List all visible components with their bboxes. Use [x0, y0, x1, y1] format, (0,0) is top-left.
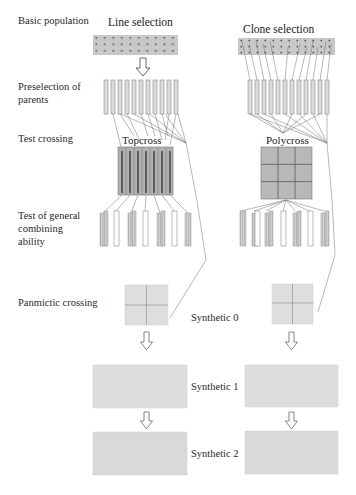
synthetic-2-box-right [245, 431, 338, 474]
synthetic-1-box-left [93, 365, 187, 408]
connectors-left-gca [103, 195, 188, 213]
synthetic-1-box-right [245, 365, 338, 407]
gca-bars-right [240, 211, 329, 246]
figure-caption-cutoff: (caption text below figure, cut off) [0, 488, 356, 495]
polycross-grid [261, 147, 312, 199]
population-box-left [93, 35, 178, 55]
synthetic-2-box-left [93, 432, 187, 475]
arrow-down-icon [136, 58, 150, 76]
topcross-grid [118, 147, 173, 195]
panmictic-square-left [125, 285, 168, 325]
arrow-down-icon [286, 332, 298, 350]
arrow-down-icon [286, 412, 298, 429]
population-box-right [238, 38, 335, 55]
arrow-down-icon [141, 412, 153, 429]
breeding-scheme-diagram [0, 0, 356, 495]
panmictic-square-right [272, 284, 313, 324]
parent-bars-right [248, 80, 329, 114]
arrow-down-icon [141, 332, 153, 350]
parent-bars-left [104, 80, 178, 114]
gca-bars-left [100, 211, 191, 246]
connectors-right-gca [241, 200, 324, 211]
